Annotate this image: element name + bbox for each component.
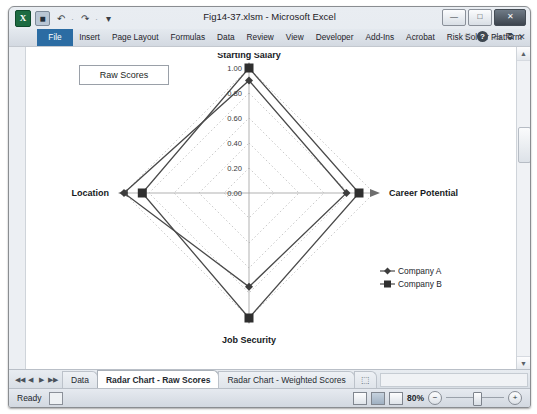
- maximize-button[interactable]: □: [468, 9, 492, 26]
- window-controls: — □ ✕: [442, 9, 526, 26]
- close-button[interactable]: ✕: [494, 9, 526, 26]
- minimize-ribbon-icon[interactable]: ▭: [493, 32, 502, 42]
- chart-badge-raw-scores[interactable]: Raw Scores: [79, 65, 169, 85]
- ribbon-tabs: Home Insert Page Layout Formulas Data Re…: [9, 29, 530, 46]
- radar-chart[interactable]: 1.00 0.80 0.60 0.40 0.20 0.00 Starting S…: [31, 53, 510, 366]
- status-text: Ready: [9, 393, 42, 403]
- zoom-slider[interactable]: [446, 392, 504, 404]
- ribbon-tab-bar: File Home Insert Page Layout Formulas Da…: [9, 29, 530, 47]
- vertical-scrollbar-thumb[interactable]: [518, 127, 531, 163]
- category-label-starting-salary: Starting Salary: [217, 53, 281, 60]
- zoom-in-button[interactable]: +: [508, 391, 522, 405]
- tab-data[interactable]: Data: [211, 29, 241, 46]
- tab-acrobat[interactable]: Acrobat: [400, 29, 441, 46]
- tab-developer[interactable]: Developer: [310, 29, 360, 46]
- radial-tick-0.40: 0.40: [227, 139, 242, 148]
- horizontal-scrollbar-track[interactable]: [380, 373, 528, 387]
- radar-axes: [124, 68, 374, 318]
- title-bar: X ■ ↶ · ↷ · ▾ Fig14-37.xlsm - Microsoft …: [9, 7, 530, 29]
- chart-legend[interactable]: Company A Company B: [380, 266, 442, 289]
- prev-sheet-icon[interactable]: ◀: [26, 376, 35, 384]
- legend-label-company-a: Company A: [398, 266, 442, 276]
- excel-window: X ■ ↶ · ↷ · ▾ Fig14-37.xlsm - Microsoft …: [8, 6, 531, 408]
- category-label-job-security: Job Security: [222, 335, 276, 345]
- legend-marker-company-b-icon: [384, 281, 391, 288]
- row-header-strip: [9, 47, 26, 370]
- zoom-out-button[interactable]: −: [428, 391, 442, 405]
- sheet-nav-buttons: ◀◀ ◀ ▶ ▶▶: [9, 376, 62, 384]
- radial-tick-1.00: 1.00: [227, 64, 242, 73]
- radar-chart-svg: 1.00 0.80 0.60 0.40 0.20 0.00 Starting S…: [31, 53, 511, 371]
- sheet-tab-radar-chart-raw-scores[interactable]: Radar Chart - Raw Scores: [97, 370, 219, 389]
- legend-marker-company-a-icon: [384, 268, 391, 275]
- status-bar: Ready 80% − +: [9, 388, 530, 407]
- radial-tick-0.00: 0.00: [227, 189, 242, 198]
- close-window-icon[interactable]: ✕: [518, 32, 526, 42]
- worksheet-area: 1.00 0.80 0.60 0.40 0.20 0.00 Starting S…: [9, 46, 530, 370]
- tab-file[interactable]: File: [37, 29, 73, 46]
- tab-review[interactable]: Review: [241, 29, 280, 46]
- vertical-scrollbar[interactable]: ▲ ▼: [516, 47, 530, 370]
- radial-tick-0.60: 0.60: [227, 114, 242, 123]
- last-sheet-icon[interactable]: ▶▶: [48, 376, 57, 384]
- minimize-button[interactable]: —: [442, 9, 466, 26]
- first-sheet-icon[interactable]: ◀◀: [15, 376, 24, 384]
- tab-add-ins[interactable]: Add-Ins: [360, 29, 401, 46]
- sheet-tab-radar-chart-weighted-scores[interactable]: Radar Chart - Weighted Scores: [218, 371, 354, 388]
- sheet-tab-data[interactable]: Data: [62, 371, 98, 388]
- page-layout-view-button[interactable]: [371, 392, 385, 405]
- series-company-a-markers: [120, 77, 351, 291]
- ribbon-right-icons: ♡ ? ▭ ⧉ ✕: [464, 31, 526, 42]
- tab-formulas[interactable]: Formulas: [165, 29, 212, 46]
- page-break-view-button[interactable]: [389, 392, 403, 405]
- ribbon-options-icon[interactable]: ♡: [464, 32, 472, 42]
- status-bar-right: 80% − +: [353, 391, 530, 405]
- zoom-level-label[interactable]: 80%: [407, 393, 424, 403]
- tab-view[interactable]: View: [280, 29, 310, 46]
- help-icon[interactable]: ?: [477, 31, 488, 42]
- scroll-down-arrow-icon[interactable]: ▼: [517, 356, 530, 370]
- legend-label-company-b: Company B: [398, 279, 442, 289]
- zoom-slider-thumb[interactable]: [473, 392, 482, 406]
- series-company-a-line: [124, 81, 347, 287]
- radial-tick-0.20: 0.20: [227, 164, 242, 173]
- category-label-location: Location: [72, 188, 110, 198]
- tab-page-layout[interactable]: Page Layout: [106, 29, 165, 46]
- next-sheet-icon[interactable]: ▶: [37, 376, 46, 384]
- normal-view-button[interactable]: [353, 392, 367, 405]
- horizontal-scrollbar[interactable]: [380, 370, 530, 389]
- restore-window-icon[interactable]: ⧉: [507, 31, 513, 42]
- scroll-up-arrow-icon[interactable]: ▲: [517, 47, 530, 61]
- radial-tick-0.80: 0.80: [227, 89, 242, 98]
- record-macro-icon[interactable]: [49, 392, 63, 405]
- insert-worksheet-icon[interactable]: ⬚: [354, 371, 377, 388]
- category-label-career-potential: Career Potential: [389, 188, 458, 198]
- tab-insert[interactable]: Insert: [73, 29, 106, 46]
